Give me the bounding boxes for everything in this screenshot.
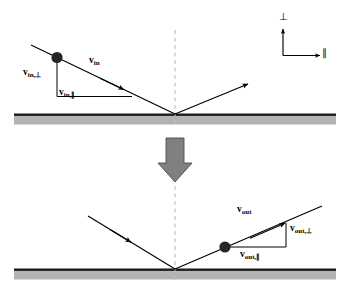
time-progression-arrow <box>158 138 192 182</box>
top-incident-ray-arrowhead <box>100 78 124 90</box>
diagram-canvas <box>0 0 350 301</box>
label-v-out-perp: vout,⊥ <box>290 224 312 234</box>
bottom-particle-dot <box>219 241 230 252</box>
label-v-in: vin <box>89 56 100 66</box>
label-v-out-parallel: vout,∥ <box>240 250 260 260</box>
bottom-incident-ray <box>88 216 175 269</box>
label-v-out: vout <box>237 205 251 215</box>
axes-legend-marks <box>283 29 320 56</box>
perpendicular-axis-label: ⊥ <box>279 12 288 22</box>
parallel-axis-label: ∥ <box>322 48 327 58</box>
label-v-in-parallel: vin,∥ <box>59 88 75 98</box>
top-reflected-ray <box>175 84 248 114</box>
label-v-in-perp: vin,⊥ <box>23 68 41 78</box>
top-particle-dot <box>51 52 62 63</box>
reflection-diagram: vin vin,⊥ vin,∥ ⊥ ∥ vout vout,⊥ vout,∥ <box>0 0 350 301</box>
bottom-incident-ray-arrowhead <box>110 229 131 242</box>
bottom-reflected-ray-arrowhead <box>250 223 285 238</box>
